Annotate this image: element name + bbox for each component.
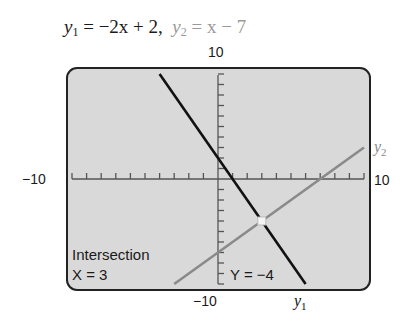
calculator-screen [0, 0, 407, 321]
intersection-cursor [258, 217, 266, 225]
intersection-x-value: X = 3 [72, 266, 107, 283]
intersection-y-value: Y = −4 [230, 266, 274, 283]
intersection-label: Intersection [72, 246, 150, 263]
y2-curve-label: y2 [374, 138, 387, 158]
y1-curve-label: y1 [294, 292, 307, 312]
